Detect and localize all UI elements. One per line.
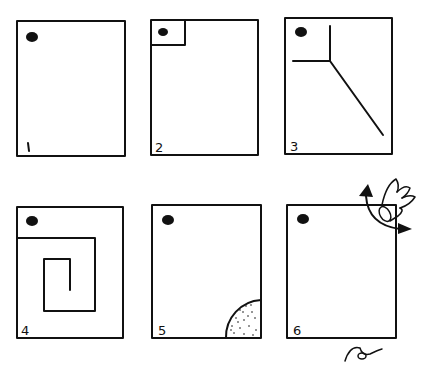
- dot-icon: [162, 215, 174, 225]
- hand-icon: [377, 179, 415, 223]
- diagram-canvas: 2 3 4 5 6: [0, 0, 434, 375]
- panel-3-diagonal-line: [330, 61, 383, 135]
- stipple-dots: [230, 304, 257, 336]
- panel-3-number: 3: [290, 139, 298, 154]
- dot-icon: [158, 28, 168, 36]
- panel-2-number: 2: [155, 140, 163, 155]
- panel-6-frame: [287, 205, 396, 338]
- panel-6: [287, 179, 415, 338]
- arrowhead-right-icon: [398, 223, 412, 234]
- panel-3-frame: [285, 18, 392, 154]
- panel-6-number: 6: [293, 323, 301, 338]
- dot-icon: [26, 32, 38, 42]
- panel-2-frame: [151, 20, 258, 155]
- dot-icon: [26, 216, 38, 226]
- panel-1: [17, 21, 125, 156]
- panel-1-number: [28, 143, 29, 151]
- panel-3: [285, 18, 392, 154]
- panel-2: [151, 20, 258, 155]
- dot-icon: [297, 214, 309, 224]
- panel-4-number: 4: [21, 323, 29, 338]
- signature-mark: [345, 348, 382, 361]
- dot-icon: [295, 27, 307, 37]
- panel-5-number: 5: [158, 323, 166, 338]
- panel-4-spiral: [17, 238, 95, 311]
- panel-2-corner-square: [151, 20, 185, 45]
- arrowhead-up-icon: [359, 184, 373, 197]
- panel-4: [17, 207, 123, 338]
- panel-5: [152, 205, 261, 338]
- panel-5-quarter-circle: [226, 300, 261, 338]
